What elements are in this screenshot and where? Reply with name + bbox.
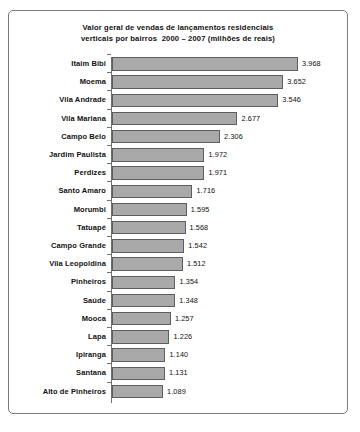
bar-row: Mooca1.257 <box>9 310 349 328</box>
axis-tick <box>107 109 111 110</box>
axis-tick <box>107 291 111 292</box>
bar-value-label: 1.568 <box>190 219 209 237</box>
bar <box>112 294 175 307</box>
axis-tick <box>107 345 111 346</box>
axis-tick <box>107 90 111 91</box>
bar <box>112 94 278 107</box>
bar-value-label: 2.306 <box>224 128 243 146</box>
bar <box>112 75 283 88</box>
bar <box>112 203 187 216</box>
bar-row: Campo Belo2.306 <box>9 128 349 146</box>
axis-tick <box>107 309 111 310</box>
category-label: Morumbi <box>0 201 106 219</box>
category-label: Ipiranga <box>0 346 106 364</box>
category-label: Campo Grande <box>0 237 106 255</box>
bar <box>112 166 204 179</box>
bar-row: Saúde1.348 <box>9 292 349 310</box>
axis-tick <box>107 72 111 73</box>
bar-row: Perdizes1.971 <box>9 164 349 182</box>
bar-value-label: 1.716 <box>196 182 215 200</box>
bar-value-label: 2.677 <box>241 110 260 128</box>
chart-title-line-1: Valor geral de vendas de lançamentos res… <box>9 22 347 33</box>
bar-value-label: 1.354 <box>179 273 198 291</box>
category-label: Itaim Bibi <box>0 55 106 73</box>
axis-tick <box>107 254 111 255</box>
bar-value-label: 1.542 <box>188 237 207 255</box>
bar-value-label: 1.595 <box>191 201 210 219</box>
bar-row: Alto de Pinheiros1.089 <box>9 383 349 401</box>
bar-chart-plot-area: Itaim Bibi3.968Moema3.652Vila Andrade3.5… <box>9 55 349 407</box>
bar-row: Lapa1.226 <box>9 328 349 346</box>
category-label: Lapa <box>0 328 106 346</box>
bar-value-label: 1.348 <box>179 292 198 310</box>
category-label: Pinheiros <box>0 273 106 291</box>
axis-tick <box>107 181 111 182</box>
bar-value-label: 1.089 <box>167 383 186 401</box>
bar-row: Vila Andrade3.546 <box>9 91 349 109</box>
bar <box>112 257 183 270</box>
bar <box>112 276 175 289</box>
bar-row: Santo Amaro1.716 <box>9 182 349 200</box>
bar <box>112 367 165 380</box>
bar <box>112 312 171 325</box>
axis-tick <box>107 127 111 128</box>
bar <box>112 130 220 143</box>
bar <box>112 221 186 234</box>
category-label: Campo Belo <box>0 128 106 146</box>
bar-value-label: 1.226 <box>173 328 192 346</box>
axis-tick <box>107 363 111 364</box>
bar <box>112 385 163 398</box>
bar-value-label: 1.512 <box>187 255 206 273</box>
axis-tick <box>107 163 111 164</box>
category-label: Tatuapé <box>0 219 106 237</box>
axis-tick <box>107 218 111 219</box>
bar-value-label: 1.972 <box>208 146 227 164</box>
axis-tick <box>107 200 111 201</box>
bar <box>112 112 237 125</box>
axis-tick <box>107 272 111 273</box>
bar-value-label: 1.131 <box>169 364 188 382</box>
axis-tick <box>107 327 111 328</box>
bar-value-label: 1.140 <box>169 346 188 364</box>
axis-tick <box>107 382 111 383</box>
bar-row: Vila Mariana2.677 <box>9 110 349 128</box>
category-label: Jardim Paulista <box>0 146 106 164</box>
axis-tick <box>107 236 111 237</box>
bar <box>112 185 192 198</box>
category-label: Vila Leopoldina <box>0 255 106 273</box>
category-label: Saúde <box>0 292 106 310</box>
bar-row: Pinheiros1.354 <box>9 273 349 291</box>
category-label: Vila Mariana <box>0 110 106 128</box>
bar-row: Moema3.652 <box>9 73 349 91</box>
bar-value-label: 3.652 <box>287 73 306 91</box>
bar-row: Campo Grande1.542 <box>9 237 349 255</box>
bar-row: Itaim Bibi3.968 <box>9 55 349 73</box>
bar-value-label: 1.257 <box>175 310 194 328</box>
bar-row: Morumbi1.595 <box>9 201 349 219</box>
category-label: Santo Amaro <box>0 182 106 200</box>
category-label: Mooca <box>0 310 106 328</box>
chart-title-line-2: verticais por bairros 2000 – 2007 (milhõ… <box>9 33 347 44</box>
category-label: Santana <box>0 364 106 382</box>
axis-tick <box>107 54 111 55</box>
bar <box>112 330 169 343</box>
bar <box>112 239 184 252</box>
chart-frame: Valor geral de vendas de lançamentos res… <box>8 10 348 414</box>
bar-value-label: 1.971 <box>208 164 227 182</box>
category-label: Alto de Pinheiros <box>0 383 106 401</box>
bar-value-label: 3.546 <box>282 91 301 109</box>
bar-row: Vila Leopoldina1.512 <box>9 255 349 273</box>
bar-row: Santana1.131 <box>9 364 349 382</box>
bar <box>112 348 165 361</box>
bar-row: Ipiranga1.140 <box>9 346 349 364</box>
bar <box>112 148 204 161</box>
bar-row: Tatuapé1.568 <box>9 219 349 237</box>
bar-value-label: 3.968 <box>302 55 321 73</box>
category-label: Moema <box>0 73 106 91</box>
category-label: Perdizes <box>0 164 106 182</box>
bar <box>112 57 298 70</box>
category-label: Vila Andrade <box>0 91 106 109</box>
chart-title: Valor geral de vendas de lançamentos res… <box>9 22 347 44</box>
bar-row: Jardim Paulista1.972 <box>9 146 349 164</box>
axis-tick <box>107 145 111 146</box>
